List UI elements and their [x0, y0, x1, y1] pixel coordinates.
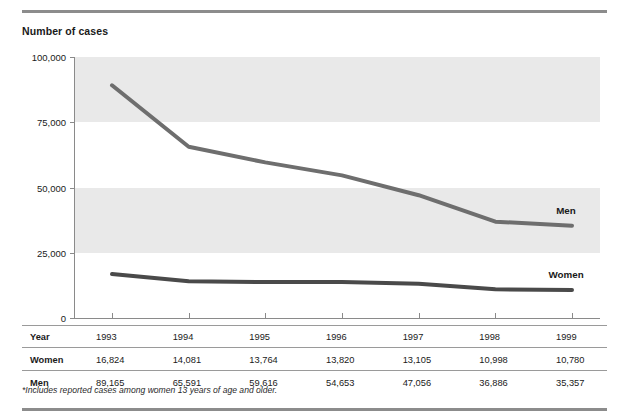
footnote-text: *Includes reported cases among women 13 …: [22, 385, 277, 395]
table-row-women: Women16,82414,08113,76413,82013,10510,99…: [22, 350, 607, 370]
figure-container: Number of cases 025,00050,00075,000100,0…: [0, 0, 629, 417]
table-sep-women-men: [22, 370, 607, 371]
table-cell-year-1996: 1996: [326, 332, 347, 342]
table-row-header-year: Year: [30, 332, 50, 342]
table-cell-women-1998: 10,998: [479, 355, 507, 365]
bottom-divider-rule: [22, 408, 607, 411]
table-cell-women-1999: 10,780: [556, 355, 584, 365]
table-cell-year-1995: 1995: [249, 332, 270, 342]
table-cell-women-1995: 13,764: [249, 355, 277, 365]
table-cell-women-1997: 13,105: [403, 355, 431, 365]
series-line-men: [112, 85, 572, 225]
table-cell-men-1998: 36,886: [479, 378, 507, 388]
table-cell-men-1997: 47,056: [403, 378, 431, 388]
series-label-women: Women: [548, 269, 583, 280]
table-row-header-women: Women: [30, 355, 63, 365]
table-cell-year-1998: 1998: [479, 332, 500, 342]
table-row-year: Year1993199419951996199719981999: [22, 327, 607, 347]
table-sep-top: [22, 325, 607, 326]
series-line-women: [112, 274, 572, 290]
table-cell-year-1997: 1997: [403, 332, 424, 342]
table-cell-year-1993: 1993: [96, 332, 117, 342]
table-cell-women-1993: 16,824: [96, 355, 124, 365]
table-cell-women-1996: 13,820: [326, 355, 354, 365]
table-cell-year-1994: 1994: [173, 332, 194, 342]
table-cell-year-1999: 1999: [556, 332, 577, 342]
table-cell-men-1999: 35,357: [556, 378, 584, 388]
table-cell-women-1994: 14,081: [173, 355, 201, 365]
table-sep-year-women: [22, 347, 607, 348]
table-cell-men-1996: 54,653: [326, 378, 354, 388]
series-label-men: Men: [556, 205, 576, 216]
